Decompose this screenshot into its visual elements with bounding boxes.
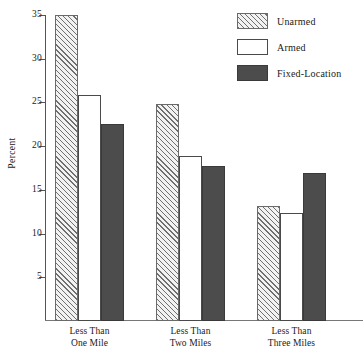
category-label-line: Two Miles <box>146 338 236 350</box>
y-tick-label: 10 <box>16 229 42 239</box>
category-label-line: Less Than <box>146 326 236 338</box>
y-tick-label: 25 <box>16 97 42 107</box>
bar-armed <box>179 156 202 321</box>
bar-fixed-location <box>202 166 225 321</box>
legend-label: Fixed-Location <box>277 68 341 79</box>
legend-item-armed: Armed <box>237 38 361 56</box>
y-axis-title: Percent <box>7 123 17 183</box>
outline-swatch-icon <box>237 39 268 55</box>
x-axis-category-label: Less ThanOne Mile <box>45 326 135 349</box>
legend-item-unarmed: Unarmed <box>237 12 361 30</box>
x-axis-category-label: Less ThanThree Miles <box>247 326 337 349</box>
y-tick-label: 20 <box>16 141 42 151</box>
x-axis-category-label: Less ThanTwo Miles <box>146 326 236 349</box>
bar-unarmed <box>156 104 179 321</box>
legend-label: Unarmed <box>277 16 316 27</box>
y-tick-label: 5 <box>16 272 42 282</box>
hatched-swatch-icon <box>237 13 268 29</box>
bar-fixed-location <box>101 124 124 321</box>
bar-unarmed <box>257 206 280 321</box>
y-tick-label: 30 <box>16 54 42 64</box>
bar-armed <box>280 213 303 321</box>
category-label-line: One Mile <box>45 338 135 350</box>
category-label-line: Three Miles <box>247 338 337 350</box>
bar-unarmed <box>55 15 78 321</box>
chart-legend: Unarmed Armed Fixed-Location <box>237 12 361 90</box>
bar-fixed-location <box>303 173 326 321</box>
y-tick-label: 35 <box>16 10 42 20</box>
legend-item-fixed-location: Fixed-Location <box>237 64 361 82</box>
category-label-line: Less Than <box>45 326 135 338</box>
bar-chart: 5101520253035 Percent Less ThanOne MileL… <box>0 0 364 355</box>
category-label-line: Less Than <box>247 326 337 338</box>
y-tick-label: 15 <box>16 185 42 195</box>
legend-label: Armed <box>277 42 306 53</box>
solid-swatch-icon <box>237 65 268 81</box>
bar-armed <box>78 95 101 321</box>
